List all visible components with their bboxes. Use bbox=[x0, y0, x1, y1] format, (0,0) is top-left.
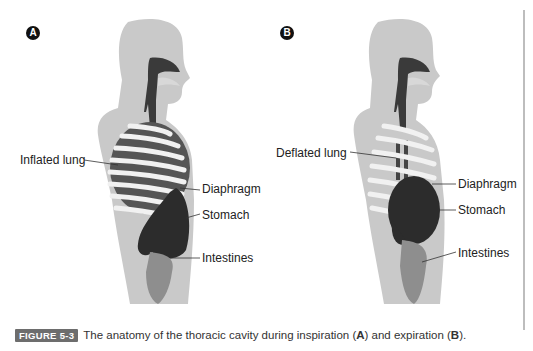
caption-ref-b: B bbox=[451, 329, 459, 341]
label-intestines-a: Intestines bbox=[202, 251, 253, 265]
label-deflated-lung: Deflated lung bbox=[276, 146, 347, 160]
page-margin-rule bbox=[523, 10, 525, 330]
label-intestines-b: Intestines bbox=[458, 246, 509, 260]
figure-tag: FIGURE 5-3 bbox=[15, 329, 78, 342]
figure-caption: FIGURE 5-3The anatomy of the thoracic ca… bbox=[15, 329, 466, 342]
caption-text-1: The anatomy of the thoracic cavity durin… bbox=[83, 329, 356, 341]
panel-a-badge: A bbox=[26, 26, 40, 40]
label-stomach-b: Stomach bbox=[458, 203, 505, 217]
label-inflated-lung: Inflated lung bbox=[20, 153, 85, 167]
panel-b-badge: B bbox=[280, 26, 294, 40]
label-diaphragm-a: Diaphragm bbox=[202, 182, 261, 196]
panel-expiration: B Deflated lung Diaphragm Stomach Intest… bbox=[262, 0, 512, 310]
caption-text-2: ) and expiration ( bbox=[365, 329, 451, 341]
panel-inspiration: A Inflated lung Diaphragm Stomach Intest… bbox=[0, 0, 262, 310]
label-stomach-a: Stomach bbox=[202, 208, 249, 222]
label-diaphragm-b: Diaphragm bbox=[458, 177, 517, 191]
caption-ref-a: A bbox=[356, 329, 364, 341]
caption-text-3: ). bbox=[459, 329, 466, 341]
